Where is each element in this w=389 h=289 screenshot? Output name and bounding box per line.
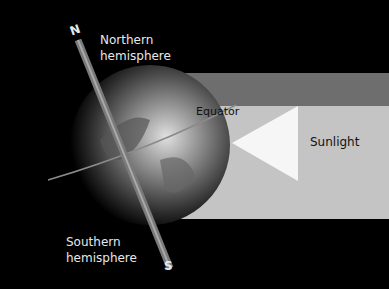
equator-label: Equator: [196, 104, 239, 120]
sunlight-label: Sunlight: [310, 134, 359, 150]
northern-hemisphere-label: Northern hemisphere: [100, 32, 171, 64]
southern-hemisphere-label: Southern hemisphere: [66, 234, 137, 266]
earth-tilt-diagram: N Northern hemisphere Equator Sunlight S…: [0, 0, 389, 289]
south-pole-label: S: [164, 258, 173, 274]
